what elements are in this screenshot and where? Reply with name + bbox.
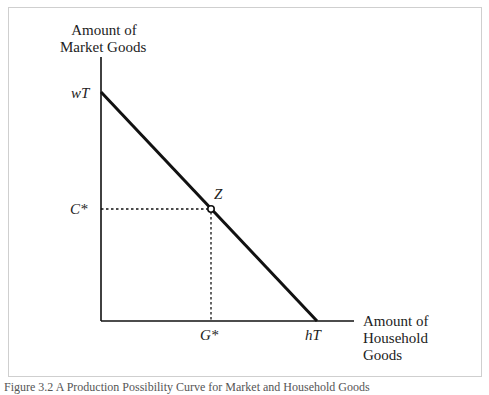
c-star-label: C* xyxy=(70,200,88,218)
point-z-label: Z xyxy=(214,185,222,203)
hT-label: hT xyxy=(305,326,321,344)
wT-label: wT xyxy=(71,84,89,102)
x-axis-title-line2: Household xyxy=(363,329,428,347)
g-star-label: G* xyxy=(200,326,218,344)
y-axis-title: Amount of xyxy=(64,21,144,39)
x-axis-title-line3: Goods xyxy=(363,346,402,364)
y-axis-title-line1: Amount of xyxy=(64,21,144,39)
point-z-marker xyxy=(208,206,214,212)
y-axis-title-line2: Market Goods xyxy=(60,38,146,56)
figure-caption: Figure 3.2 A Production Possibility Curv… xyxy=(4,380,370,395)
x-axis-title-line1: Amount of xyxy=(363,312,428,330)
